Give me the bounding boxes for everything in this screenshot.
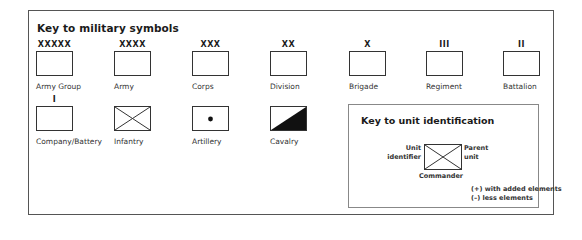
note-added-elements: (+) with added elements	[471, 185, 562, 193]
symbol-label: Regiment	[426, 82, 462, 91]
unit-identifier-line2: identifier	[387, 153, 421, 162]
note-less-elements: (–) less elements	[471, 194, 533, 202]
army-group-icon	[36, 51, 73, 76]
symbol-label: Army	[114, 82, 134, 91]
symbol-label: Company/Battery	[36, 137, 102, 146]
regiment-icon	[426, 51, 463, 76]
artillery-icon	[192, 106, 229, 131]
unit-identification-key: Key to unit identification Unit identifi…	[348, 104, 539, 208]
symbol-label: Corps	[192, 82, 214, 91]
battalion-icon	[503, 51, 540, 76]
symbol-label: Cavalry	[270, 137, 298, 146]
army-icon	[114, 51, 151, 76]
cavalry-icon	[270, 106, 307, 131]
commander-label: Commander	[419, 172, 463, 180]
size-mark: I	[36, 95, 73, 105]
size-mark: XXXX	[114, 40, 151, 50]
infantry-icon	[114, 106, 151, 131]
corps-icon	[192, 51, 229, 76]
brigade-icon	[349, 51, 386, 76]
size-mark: III	[426, 40, 463, 50]
division-icon	[270, 51, 307, 76]
unit-identifier-label: Unit identifier	[387, 144, 421, 162]
company-battery-icon	[36, 106, 73, 131]
symbol-label: Infantry	[114, 137, 143, 146]
unit-identifier-line1: Unit	[387, 144, 421, 153]
size-mark: II	[503, 40, 540, 50]
symbol-label: Brigade	[349, 82, 378, 91]
parent-unit-label: Parent unit	[464, 144, 488, 162]
parent-unit-line1: Parent	[464, 144, 488, 153]
unit-symbol-icon	[424, 144, 462, 170]
symbol-label: Army Group	[36, 82, 81, 91]
symbol-label: Artillery	[192, 137, 222, 146]
key-title: Key to military symbols	[37, 22, 179, 34]
size-mark: X	[349, 40, 386, 50]
size-mark: XXX	[192, 40, 229, 50]
symbol-label: Division	[270, 82, 300, 91]
size-mark: XXXXX	[36, 40, 73, 50]
symbol-label: Battalion	[503, 82, 537, 91]
unit-key-title: Key to unit identification	[361, 115, 494, 126]
size-mark: XX	[270, 40, 307, 50]
parent-unit-line2: unit	[464, 153, 488, 162]
